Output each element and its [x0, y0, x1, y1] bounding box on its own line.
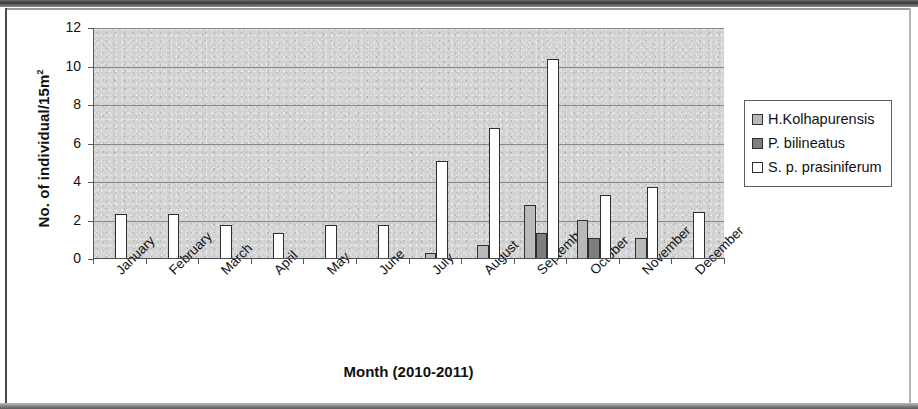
legend-item: H.Kolhapurensis — [752, 107, 882, 131]
x-axis-tick-mark — [356, 259, 357, 264]
gridline — [94, 221, 724, 222]
bar — [635, 238, 647, 259]
gridline — [94, 182, 724, 183]
bar — [600, 195, 612, 259]
gridline — [94, 28, 724, 29]
bar — [477, 245, 489, 259]
y-axis-tick-label: 0 — [53, 250, 81, 266]
y-axis-title-superscript: 2 — [35, 69, 45, 74]
x-axis-line — [93, 258, 725, 259]
chart-legend: H.KolhapurensisP. bilineatusS. p. prasin… — [744, 100, 892, 187]
legend-swatch-icon — [752, 138, 763, 149]
x-axis-tick-mark — [619, 259, 620, 264]
bar — [588, 238, 600, 259]
x-axis-tick-mark — [198, 259, 199, 264]
legend-swatch-icon — [752, 114, 763, 125]
bar — [536, 233, 548, 259]
y-axis-title-text: No. of individual/15m — [35, 75, 52, 228]
legend-item-label: H.Kolhapurensis — [768, 111, 874, 127]
x-axis-title: Month (2010-2011) — [93, 363, 724, 380]
gridline — [94, 105, 724, 106]
legend-item-label: S. p. prasiniferum — [768, 159, 882, 175]
x-axis-tick-mark — [251, 259, 252, 264]
y-axis-tick-label: 10 — [53, 58, 81, 74]
bar — [489, 128, 501, 259]
gridline — [94, 144, 724, 145]
bar — [577, 220, 589, 259]
legend-item-label: P. bilineatus — [768, 135, 845, 151]
bar — [547, 59, 559, 259]
x-axis-tick-mark — [146, 259, 147, 264]
legend-swatch-icon — [752, 162, 763, 173]
bar — [273, 233, 285, 259]
y-axis-tick-label: 2 — [53, 212, 81, 228]
bar — [115, 214, 127, 259]
x-axis-tick-mark — [461, 259, 462, 264]
bar-chart: No. of individual/15m2 024681012 January… — [0, 0, 918, 409]
y-axis-tick-label: 4 — [53, 173, 81, 189]
bar — [647, 187, 659, 259]
bar — [524, 205, 536, 259]
y-axis-tick-label: 8 — [53, 96, 81, 112]
bar — [325, 225, 337, 259]
y-axis-tick-label: 6 — [53, 135, 81, 151]
scanned-figure-page: No. of individual/15m2 024681012 January… — [0, 0, 918, 409]
y-axis-title: No. of individual/15m2 — [35, 34, 52, 264]
x-axis-tick-mark — [303, 259, 304, 264]
bar — [378, 225, 390, 259]
x-axis-tick-mark — [724, 259, 725, 264]
x-axis-tick-mark — [93, 259, 94, 264]
x-axis-tick-mark — [671, 259, 672, 264]
bar — [693, 212, 705, 259]
y-axis-tick-label: 12 — [53, 19, 81, 35]
bar — [168, 214, 180, 259]
x-axis-tick-mark — [514, 259, 515, 264]
bar — [220, 225, 232, 259]
gridline — [94, 67, 724, 68]
x-axis-tick-mark — [566, 259, 567, 264]
legend-item: S. p. prasiniferum — [752, 155, 882, 179]
legend-item: P. bilineatus — [752, 131, 882, 155]
x-axis-tick-mark — [409, 259, 410, 264]
bar — [436, 161, 448, 259]
plot-area — [93, 28, 724, 259]
